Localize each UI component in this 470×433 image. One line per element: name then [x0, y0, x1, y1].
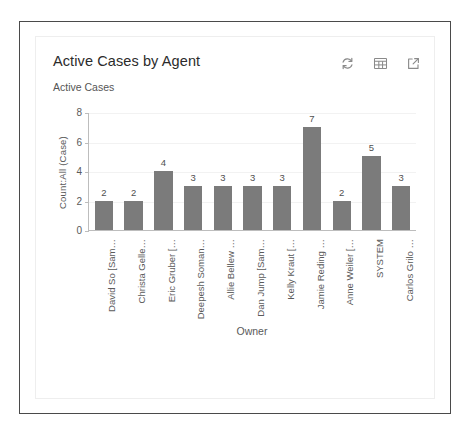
- bar[interactable]: 2: [95, 201, 113, 231]
- bar-slot: 3: [178, 113, 208, 230]
- bar[interactable]: 3: [392, 186, 410, 230]
- chart-subtitle: Active Cases: [53, 81, 114, 93]
- bar-value-label: 5: [369, 143, 374, 153]
- bar-slot: 3: [238, 113, 268, 230]
- x-axis-category-label: SYSTEM: [375, 239, 385, 278]
- bar[interactable]: 4: [154, 171, 172, 230]
- y-axis-tick: 8: [76, 108, 82, 118]
- x-axis-category-label: Jamie Reding …: [316, 239, 326, 309]
- y-axis-tickmark: [85, 202, 89, 203]
- x-axis-category-labels: David So [Sam…Christa Gelle…Eric Gruber …: [88, 235, 416, 321]
- window-frame: Active Cases by Agent: [19, 21, 451, 414]
- bar-slot: 2: [89, 113, 119, 230]
- y-axis-title-text: Count:All (Case): [57, 136, 68, 209]
- bar-slot: 2: [327, 113, 357, 230]
- x-axis-title: Owner: [88, 325, 416, 337]
- table-view-icon[interactable]: [372, 55, 389, 72]
- bar[interactable]: 7: [303, 127, 321, 230]
- expand-icon[interactable]: [405, 55, 422, 72]
- x-axis-category-slot: Carlos Grilo …: [386, 235, 416, 321]
- y-axis-tick: 6: [76, 138, 82, 148]
- bar[interactable]: 2: [333, 201, 351, 231]
- x-axis-category-label: Christa Gelle…: [137, 239, 147, 303]
- x-axis-category-slot: David So [Sam…: [88, 235, 118, 321]
- x-axis-category-label: Anne Weiler […: [345, 239, 355, 305]
- bar[interactable]: 3: [273, 186, 291, 230]
- bar-value-label: 3: [220, 173, 225, 183]
- bar[interactable]: 3: [184, 186, 202, 230]
- bar[interactable]: 2: [124, 201, 142, 231]
- x-axis-category-slot: Kelly Kraut […: [267, 235, 297, 321]
- bar-slot: 5: [357, 113, 387, 230]
- x-axis-category-slot: Deepesh Soman…: [177, 235, 207, 321]
- page-title: Active Cases by Agent: [53, 53, 200, 69]
- x-axis-category-slot: Anne Weiler […: [327, 235, 357, 321]
- x-axis-category-label: David So [Sam…: [107, 239, 117, 312]
- card-header: Active Cases by Agent: [53, 53, 422, 77]
- bar-slot: 3: [386, 113, 416, 230]
- y-axis-tick: 4: [76, 167, 82, 177]
- bar-value-label: 2: [131, 188, 136, 198]
- x-axis-category-slot: Christa Gelle…: [118, 235, 148, 321]
- bar-value-label: 2: [339, 188, 344, 198]
- y-axis-tickmark: [85, 231, 89, 232]
- x-axis-category-slot: Eric Gruber […: [148, 235, 178, 321]
- bar-slot: 3: [208, 113, 238, 230]
- bar-value-label: 3: [250, 173, 255, 183]
- bar-value-label: 4: [161, 158, 166, 168]
- x-axis-category-label: Allie Bellew …: [226, 239, 236, 300]
- bar-slot: 7: [297, 113, 327, 230]
- plot-area: 22433337253: [88, 113, 416, 231]
- x-axis-category-label: Dan Jump [Sam…: [256, 239, 266, 317]
- bar-series: 22433337253: [89, 113, 416, 230]
- x-axis-category-label: Carlos Grilo …: [405, 239, 415, 301]
- y-axis-tick: 0: [76, 226, 82, 236]
- bar[interactable]: 3: [243, 186, 261, 230]
- screenshot-root: Active Cases by Agent: [0, 0, 470, 433]
- y-axis-tickmark: [85, 143, 89, 144]
- bar-slot: 4: [148, 113, 178, 230]
- chart-plot-region: Count:All (Case) 02468 22433337253 David…: [50, 107, 422, 390]
- bar[interactable]: 3: [214, 186, 232, 230]
- x-axis-category-slot: Allie Bellew …: [207, 235, 237, 321]
- bar-value-label: 3: [399, 173, 404, 183]
- x-axis-category-slot: Jamie Reding …: [297, 235, 327, 321]
- card-toolbar: [339, 55, 422, 72]
- refresh-icon[interactable]: [339, 55, 356, 72]
- bar-value-label: 3: [280, 173, 285, 183]
- bar-slot: 3: [267, 113, 297, 230]
- bar-value-label: 7: [309, 114, 314, 124]
- bar[interactable]: 5: [362, 156, 380, 230]
- y-axis-tickmark: [85, 113, 89, 114]
- x-axis-category-label: Eric Gruber […: [167, 239, 177, 302]
- x-axis-category-slot: Dan Jump [Sam…: [237, 235, 267, 321]
- bar-value-label: 2: [101, 188, 106, 198]
- y-axis-tick-labels: 02468: [68, 107, 84, 235]
- x-axis-category-label: Deepesh Soman…: [196, 239, 206, 319]
- x-axis-category-label: Kelly Kraut […: [286, 239, 296, 300]
- y-axis-tickmark: [85, 172, 89, 173]
- bar-slot: 2: [119, 113, 149, 230]
- bar-value-label: 3: [190, 173, 195, 183]
- x-axis-category-slot: SYSTEM: [356, 235, 386, 321]
- chart-card: Active Cases by Agent: [35, 36, 435, 399]
- y-axis-tick: 2: [76, 197, 82, 207]
